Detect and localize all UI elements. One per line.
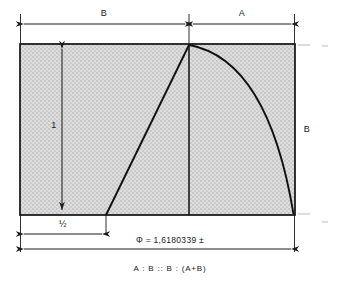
label-segment-a-top: A — [239, 8, 245, 18]
label-half-segment: ½ — [59, 219, 67, 229]
right-side-dimension: B — [304, 124, 310, 134]
top-dimension-chain: B A — [24, 8, 291, 24]
diagram-canvas: B A 1 B ½ Φ = 1,6180339 ± — [0, 0, 340, 285]
rectangle-body — [20, 44, 295, 215]
golden-ratio-diagram: B A 1 B ½ Φ = 1,6180339 ± — [0, 0, 340, 285]
golden-rectangle-shape — [20, 44, 295, 215]
half-dimension: ½ — [24, 219, 102, 234]
proportion-caption: A : B :: B : (A+B) — [134, 264, 207, 273]
label-phi-equation: Φ = 1,6180339 ± — [136, 235, 204, 245]
label-segment-b-top: B — [101, 8, 107, 18]
label-proportion: A : B :: B : (A+B) — [134, 264, 207, 273]
phi-dimension: Φ = 1,6180339 ± — [24, 235, 291, 249]
label-segment-b-right: B — [304, 124, 310, 134]
label-unit-height: 1 — [51, 120, 56, 130]
